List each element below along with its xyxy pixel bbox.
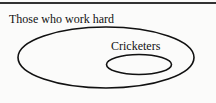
outer-set-label: Those who work hard (9, 12, 114, 27)
outer-set-ellipse (18, 27, 194, 88)
inner-set-label: Cricketers (111, 39, 160, 54)
venn-diagram: Those who work hard Cricketers (0, 0, 216, 103)
inner-set-ellipse (107, 55, 172, 75)
